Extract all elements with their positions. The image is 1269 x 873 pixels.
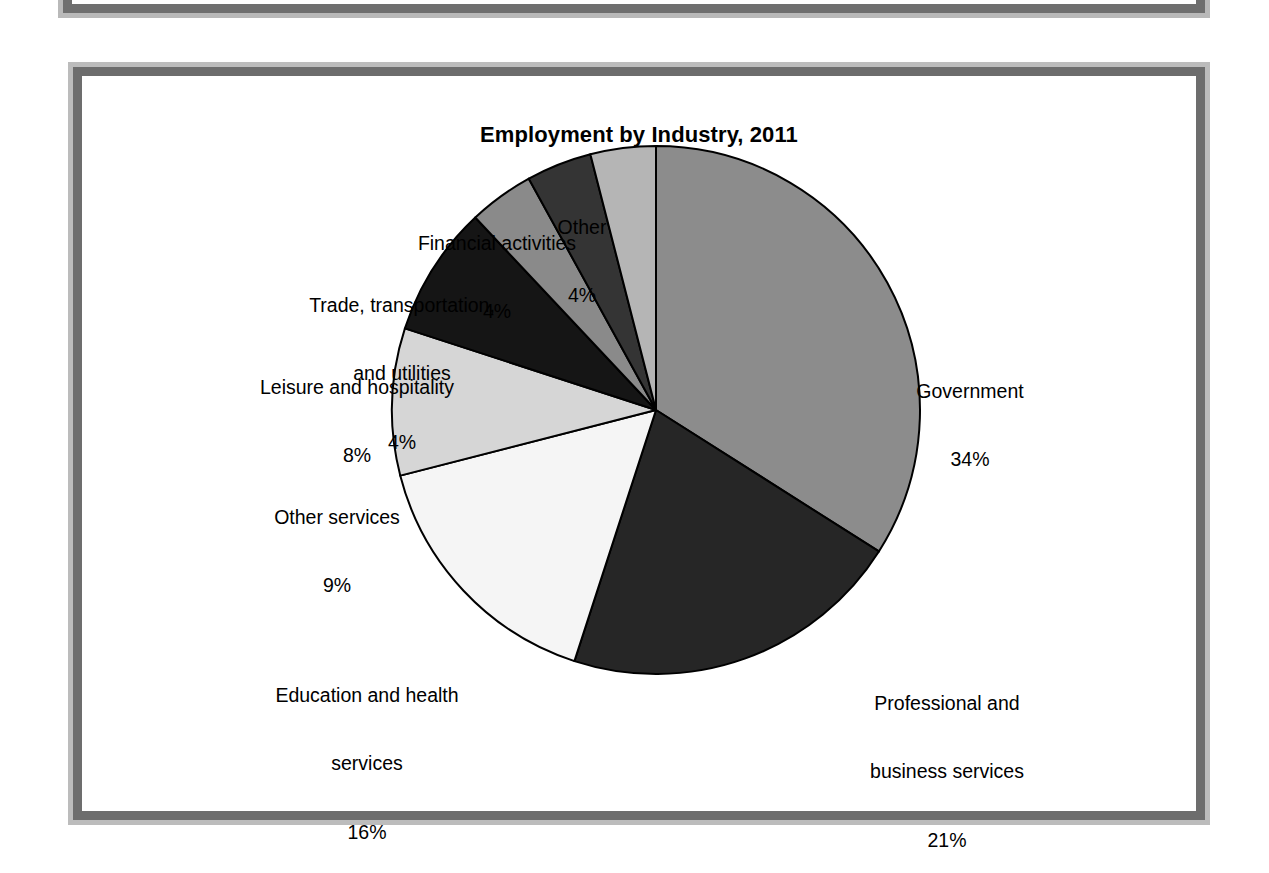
figure-frame: Employment by Industry, 2011 Other 4% Fi… <box>68 62 1210 825</box>
slice-label-government: Government 34% <box>840 334 1100 517</box>
slice-label-education-and-health-services: Education and health services 16% <box>222 638 512 873</box>
figure-frame-inner: Employment by Industry, 2011 Other 4% Fi… <box>73 67 1205 820</box>
slice-label-trade-line1: Trade, transportation, <box>252 294 552 317</box>
slice-label-education-line1: Education and health <box>222 684 512 707</box>
slice-label-other-services: Other services 9% <box>192 460 482 643</box>
previous-figure-frame <box>58 0 1210 18</box>
slice-label-professional-and-business-services: Professional and business services 21% <box>802 646 1092 873</box>
chart-canvas: Employment by Industry, 2011 Other 4% Fi… <box>82 76 1196 811</box>
slice-label-leisure-name: Leisure and hospitality <box>182 376 532 399</box>
slice-label-government-pct: 34% <box>840 448 1100 471</box>
slice-label-professional-line2: business services <box>802 760 1092 783</box>
slice-label-other-services-name: Other services <box>192 506 482 529</box>
previous-figure-frame-inner <box>63 0 1205 13</box>
slice-label-professional-pct: 21% <box>802 829 1092 852</box>
slice-label-government-name: Government <box>840 380 1100 403</box>
slice-label-education-line2: services <box>222 752 512 775</box>
slice-label-other-services-pct: 9% <box>192 574 482 597</box>
slice-label-education-pct: 16% <box>222 821 512 844</box>
slice-label-professional-line1: Professional and <box>802 692 1092 715</box>
